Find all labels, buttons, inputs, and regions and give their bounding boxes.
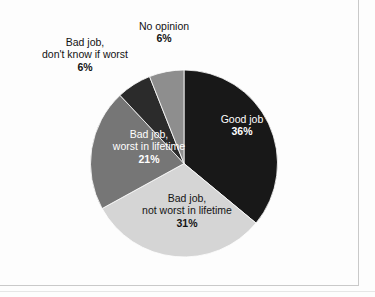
slice-label-bad-job-dont-know-line1: Bad job, (12, 36, 158, 48)
slice-label-bad-job-not-worst: Bad job, not worst in lifetime 31% (120, 192, 254, 229)
slice-label-bad-job-worst-line2: worst in lifetime (97, 140, 201, 152)
slice-label-bad-job-not-worst-line1: Bad job, (120, 192, 254, 204)
slice-label-bad-job-not-worst-percent: 31% (120, 217, 254, 229)
slice-label-bad-job-not-worst-line2: not worst in lifetime (120, 204, 254, 216)
slice-label-no-opinion-line1: No opinion (109, 20, 219, 32)
slice-label-bad-job-dont-know-percent: 6% (12, 61, 158, 73)
slice-label-good-job-percent: 36% (200, 125, 284, 137)
slice-label-bad-job-worst: Bad job, worst in lifetime 21% (97, 128, 201, 165)
slice-label-bad-job-worst-percent: 21% (97, 153, 201, 165)
slice-label-good-job: Good job 36% (200, 113, 284, 138)
slice-label-bad-job-worst-line1: Bad job, (97, 128, 201, 140)
pie-chart: No opinion 6% Bad job, don't know if wor… (0, 0, 375, 297)
slice-label-good-job-line1: Good job (200, 113, 284, 125)
figure-panel: No opinion 6% Bad job, don't know if wor… (0, 0, 375, 297)
slice-label-bad-job-dont-know-line2: don't know if worst (12, 48, 158, 60)
slice-label-bad-job-dont-know: Bad job, don't know if worst 6% (12, 36, 158, 73)
